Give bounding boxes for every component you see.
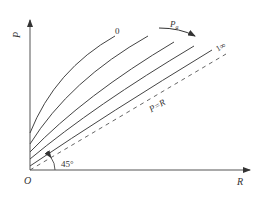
curve-infinity-label: 1∞ <box>214 41 227 54</box>
pr-diagram: P R O 45° 0 1∞ P=R Pa <box>0 0 259 198</box>
curve-4 <box>30 46 194 159</box>
x-axis-label: R <box>236 176 243 187</box>
curve-0-label: 0 <box>115 26 120 36</box>
y-axis-label: P <box>11 32 22 39</box>
pa-label: Pa <box>169 19 179 30</box>
origin-label: O <box>24 175 31 186</box>
curve-3 <box>30 42 174 152</box>
angle-arc <box>51 158 55 171</box>
curve-2 <box>30 36 148 144</box>
angle-label: 45° <box>61 159 74 169</box>
